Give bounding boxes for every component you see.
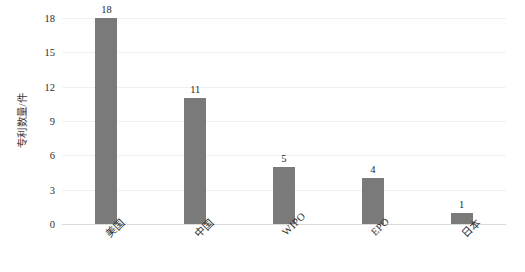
bar-value-label: 4 (370, 164, 375, 175)
bar-slot: 18 (62, 18, 151, 224)
y-tick-label: 3 (50, 184, 55, 195)
bar-chart-figure: 专利数量/件 0369121518 1811541 美国中国WIPOEPO日本 (0, 0, 525, 272)
y-axis-title: 专利数量/件 (14, 60, 30, 180)
bar-slot: 11 (151, 18, 240, 224)
x-tick-label-slot: WIPO (240, 226, 329, 272)
bar-slot: 4 (328, 18, 417, 224)
x-tick-label-slot: 中国 (151, 226, 240, 272)
bar-slot: 5 (240, 18, 329, 224)
bars-group: 1811541 (62, 18, 506, 224)
y-axis-title-label: 专利数量/件 (15, 92, 30, 147)
x-tick-label-slot: 日本 (417, 226, 506, 272)
bar-value-label: 1 (459, 199, 464, 210)
y-tick-label: 15 (45, 47, 56, 58)
plot-area: 0369121518 1811541 (62, 18, 506, 224)
y-tick-label: 6 (50, 150, 55, 161)
x-tick-label-slot: 美国 (62, 226, 151, 272)
y-tick-label: 0 (50, 219, 55, 230)
bar-value-label: 18 (101, 4, 112, 15)
bar-value-label: 5 (281, 153, 286, 164)
y-tick-label: 18 (45, 13, 56, 24)
y-tick-label: 9 (50, 116, 55, 127)
bar[interactable] (95, 18, 117, 224)
y-tick-label: 12 (45, 81, 56, 92)
bar[interactable] (184, 98, 206, 224)
bar[interactable] (273, 167, 295, 224)
x-tick-label-slot: EPO (328, 226, 417, 272)
x-axis-tick-labels: 美国中国WIPOEPO日本 (62, 226, 506, 272)
bar-value-label: 11 (190, 84, 200, 95)
bar-slot: 1 (417, 18, 506, 224)
